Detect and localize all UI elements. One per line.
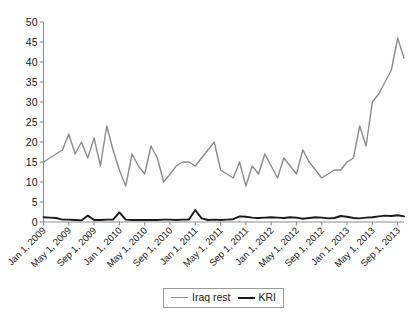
y-tick-label: 20 (26, 136, 38, 148)
line-chart: 05101520253035404550Jan 1, 2009May 1, 20… (0, 0, 414, 319)
y-tick-label: 25 (26, 116, 38, 128)
y-tick-label: 15 (26, 156, 38, 168)
series-line-iraq-rest (44, 38, 405, 186)
y-tick-label: 50 (26, 16, 38, 28)
y-tick-label: 45 (26, 36, 38, 48)
chart-container: 05101520253035404550Jan 1, 2009May 1, 20… (0, 0, 414, 319)
legend-swatch-kri (238, 297, 255, 299)
y-tick-label: 10 (26, 176, 38, 188)
y-tick-label: 35 (26, 76, 38, 88)
legend-label-iraq-rest: Iraq rest (192, 291, 231, 304)
series-line-kri (44, 210, 405, 220)
y-tick-label: 40 (26, 56, 38, 68)
chart-legend: Iraq rest KRI (163, 288, 284, 308)
legend-item-iraq-rest: Iraq rest (171, 291, 231, 304)
legend-label-kri: KRI (259, 291, 277, 304)
y-tick-label: 5 (32, 196, 38, 208)
legend-item-kri: KRI (238, 291, 277, 304)
legend-swatch-iraq-rest (171, 297, 188, 298)
y-tick-label: 0 (32, 216, 38, 228)
y-tick-label: 30 (26, 96, 38, 108)
